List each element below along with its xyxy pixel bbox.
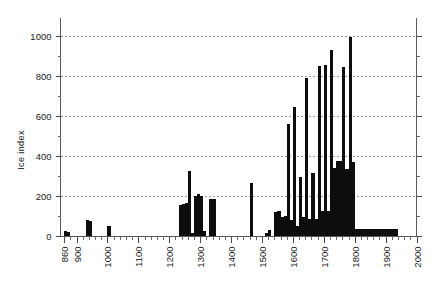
- y-tick-label: 600: [36, 111, 52, 122]
- bar: [305, 78, 308, 237]
- bar: [191, 233, 194, 237]
- y-tick-label: 400: [36, 151, 52, 162]
- bar: [379, 229, 382, 237]
- x-tick-label: 860: [59, 247, 70, 263]
- bar: [315, 219, 318, 237]
- bar: [281, 217, 284, 237]
- bar: [203, 231, 206, 237]
- bar: [302, 217, 305, 237]
- bar: [107, 226, 110, 237]
- bar: [293, 107, 296, 237]
- x-tick-label: 1500: [257, 247, 268, 268]
- x-tick-label: 1600: [288, 247, 299, 268]
- x-axis-ticks: [65, 237, 418, 243]
- bar: [349, 37, 352, 237]
- bar: [274, 212, 277, 237]
- y-tick-label: 800: [36, 71, 52, 82]
- bar: [373, 229, 376, 237]
- bar: [308, 219, 311, 237]
- bar: [179, 205, 182, 237]
- x-tick-label: 1100: [133, 247, 144, 267]
- x-tick-label: 1900: [381, 247, 392, 268]
- secondary-y-axis-ticks: [417, 37, 422, 237]
- x-tick-label: 1000: [102, 247, 113, 268]
- bar: [287, 124, 290, 237]
- bar: [265, 233, 268, 237]
- bar: [392, 229, 395, 237]
- bar: [182, 204, 185, 237]
- gridlines: [61, 37, 417, 197]
- bar: [194, 196, 197, 237]
- x-axis-tick-labels: 8609001000110012001300140015001600170018…: [59, 247, 423, 268]
- bar: [370, 229, 373, 237]
- bar: [364, 229, 367, 237]
- bar: [250, 183, 253, 237]
- bar: [395, 229, 398, 237]
- y-tick-label: 0: [46, 231, 51, 242]
- y-axis-title: Ice index: [16, 130, 26, 170]
- chart-figure: 02004006008001000 8609001000110012001300…: [0, 0, 441, 286]
- bar: [188, 171, 191, 237]
- x-tick-label: 1700: [319, 247, 330, 268]
- bar: [209, 199, 212, 237]
- bar-series: [64, 37, 398, 237]
- x-tick-label: 2000: [412, 247, 423, 268]
- bar: [67, 232, 70, 237]
- bar: [339, 161, 342, 237]
- y-tick-label: 1000: [30, 31, 51, 42]
- bar: [324, 65, 327, 237]
- bar: [311, 173, 314, 237]
- bar: [376, 229, 379, 237]
- bar: [321, 211, 324, 237]
- bar: [185, 203, 188, 237]
- bar: [200, 196, 203, 237]
- bar: [330, 50, 333, 237]
- bar: [89, 221, 92, 237]
- x-tick-label: 1800: [350, 247, 361, 268]
- x-tick-label: 900: [72, 247, 83, 263]
- bar: [355, 229, 358, 237]
- x-tick-label: 1200: [164, 247, 175, 268]
- bar: [296, 226, 299, 237]
- bar: [318, 66, 321, 237]
- bar: [358, 229, 361, 237]
- bar: [284, 216, 287, 237]
- y-axis-tick-labels: 02004006008001000: [30, 31, 51, 242]
- x-tick-label: 1300: [195, 247, 206, 268]
- bar: [213, 199, 216, 237]
- bar: [327, 211, 330, 237]
- bar: [197, 194, 200, 237]
- bar: [299, 177, 302, 237]
- bar: [277, 211, 280, 237]
- x-tick-label: 1400: [226, 247, 237, 268]
- bar: [333, 168, 336, 237]
- ice-index-bar-chart: 02004006008001000 8609001000110012001300…: [0, 0, 441, 286]
- bar: [86, 220, 89, 237]
- bar: [64, 231, 67, 237]
- bar: [386, 229, 389, 237]
- bar: [268, 230, 271, 237]
- bar: [361, 229, 364, 237]
- bar: [383, 229, 386, 237]
- y-axis-ticks: [56, 37, 61, 237]
- bar: [352, 162, 355, 237]
- bar: [290, 220, 293, 237]
- bar: [336, 161, 339, 237]
- bar: [342, 67, 345, 237]
- y-tick-label: 200: [36, 191, 52, 202]
- bar: [389, 229, 392, 237]
- bar: [367, 229, 370, 237]
- bar: [345, 169, 348, 237]
